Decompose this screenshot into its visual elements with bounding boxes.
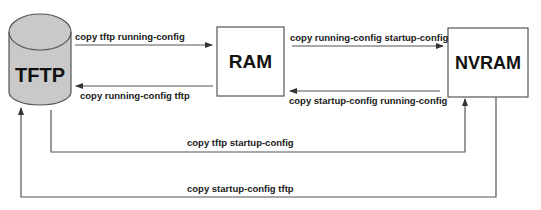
edge-nvram-to-ram: copy startup-config running-config [289,91,448,106]
tftp-label: TFTP [15,64,65,86]
diagram-canvas: TFTP RAM NVRAM copy tftp running-config … [0,0,541,210]
edge-tftp-to-nvram-label: copy tftp startup-config [187,137,294,148]
edge-tftp-to-ram-label: copy tftp running-config [75,31,185,42]
edge-ram-to-nvram: copy running-config startup-config [290,32,449,46]
tftp-node: TFTP [9,14,71,105]
edge-tftp-to-nvram: copy tftp startup-config [51,99,465,152]
ram-label: RAM [229,51,272,72]
edge-nvram-to-ram-label: copy startup-config running-config [289,95,448,106]
edge-ram-to-tftp-label: copy running-config tftp [80,90,190,101]
tftp-cylinder-top [9,14,71,50]
nvram-label: NVRAM [455,53,521,73]
edge-tftp-to-ram: copy tftp running-config [75,31,212,45]
nvram-node: NVRAM [448,28,528,97]
edge-ram-to-tftp: copy running-config tftp [76,86,213,101]
ram-node: RAM [217,27,284,96]
edge-ram-to-nvram-label: copy running-config startup-config [290,32,449,43]
edge-nvram-to-tftp-label: copy startup-config tftp [187,183,294,194]
